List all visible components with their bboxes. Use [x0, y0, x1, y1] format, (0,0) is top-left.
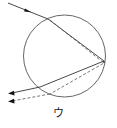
- incident-arrow-icon: [24, 9, 31, 13]
- solid-exit-ray: [12, 87, 40, 93]
- water-droplet-circle: [24, 15, 106, 97]
- reflection-point: [103, 61, 105, 63]
- solid-exit-arrow-icon: [8, 91, 15, 96]
- dashed-exit-ray: [12, 94, 50, 101]
- dashed-exit-arrow-icon: [8, 99, 15, 104]
- solid-ray-inside: [40, 19, 104, 87]
- figure-label: ウ: [0, 107, 117, 121]
